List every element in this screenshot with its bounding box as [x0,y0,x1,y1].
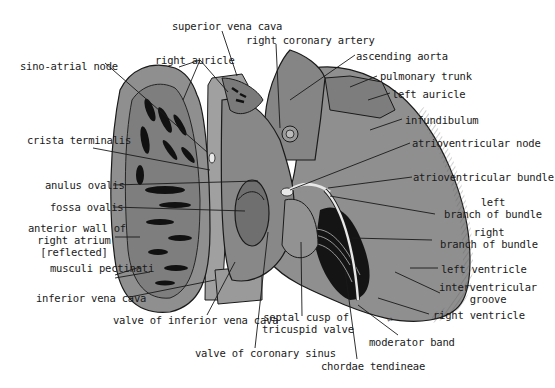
label-right-branch: right branch of bundle [434,226,544,250]
label-right-coronary-artery: right coronary artery [246,34,375,46]
label-left-auricle: left auricle [392,88,465,100]
label-inferior-vena-cava: inferior vena cava [36,292,146,304]
label-infundibulum: infundibulum [405,114,478,126]
label-moderator-band: moderator band [369,336,455,348]
label-left-branch: left branch of bundle [438,196,548,220]
label-interventricular-groove: interventricular groove [438,281,538,305]
label-left-ventricle: left ventricle [441,263,527,275]
label-atrioventricular-bundle: atrioventricular bundle [413,171,554,183]
label-anterior-wall-line1: anterior wall of [28,222,120,234]
label-right-branch-line2: branch of bundle [434,238,544,250]
label-anterior-wall: anterior wall of right atrium [reflected… [28,222,120,258]
label-sino-atrial-node: sino-atrial node [20,60,118,72]
label-anterior-wall-line3: [reflected] [28,246,120,258]
label-valve-inferior-vena-cava: valve of inferior vena cava [113,314,278,326]
label-pulmonary-trunk: pulmonary trunk [380,70,472,82]
label-interventricular-line1: interventricular [438,281,538,293]
sa-node [209,153,215,163]
label-right-ventricle: right ventricle [433,309,525,321]
label-valve-coronary-sinus: valve of coronary sinus [195,347,336,359]
label-right-branch-line1: right [434,226,544,238]
heart-diagram: R2 superior vena cava right coronary art… [0,0,555,388]
label-musculi-pectinati: musculi pectinati [50,262,154,274]
label-right-auricle: right auricle [155,54,235,66]
label-left-branch-line1: left [438,196,548,208]
label-chordae-tendineae: chordae tendineae [321,360,425,372]
label-ascending-aorta: ascending aorta [356,50,448,62]
fossa-ovalis-shape [235,180,269,246]
label-crista-terminalis: crista terminalis [27,134,131,146]
label-interventricular-line2: groove [438,293,538,305]
label-superior-vena-cava: superior vena cava [172,20,282,32]
label-fossa-ovalis: fossa ovalis [50,201,123,213]
label-left-branch-line2: branch of bundle [438,208,548,220]
label-anulus-ovalis: anulus ovalis [45,179,125,191]
label-atrioventricular-node: atrioventricular node [412,137,541,149]
label-anterior-wall-line2: right atrium [28,234,120,246]
